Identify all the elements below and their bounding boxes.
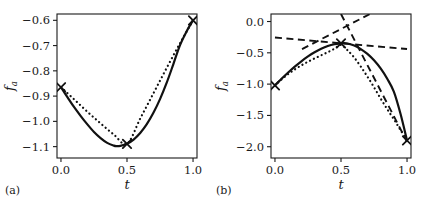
marker-sample-point	[271, 81, 279, 89]
marker-sample-point	[189, 16, 197, 24]
chart-panel-b: 0.00.51.00.0−0.5−1.0−1.5−2.0tfa(b)	[211, 0, 422, 209]
y-tick-label: −1.1	[22, 140, 50, 154]
y-tick-label: −0.6	[22, 13, 50, 27]
marker-sample-point	[57, 83, 65, 91]
x-tick-label: 1.0	[184, 163, 202, 177]
panel-label: (b)	[216, 184, 232, 197]
y-axis-title: fa	[213, 81, 230, 92]
y-tick-label: −0.5	[236, 46, 264, 60]
series-tangent-falling	[341, 14, 407, 142]
y-tick-label: −1.0	[22, 114, 50, 128]
series-true-objective	[61, 20, 193, 146]
plot-area	[271, 14, 411, 145]
svg-text:fa: fa	[213, 81, 230, 92]
y-axis-title: fa	[2, 81, 19, 92]
chart-panel-a: 0.00.51.0−0.6−0.7−0.8−0.9−1.0−1.1tfa(a)	[0, 0, 211, 209]
y-tick-label: −1.5	[236, 108, 264, 122]
axes-frame	[271, 14, 411, 158]
plot-svg: 0.00.51.00.0−0.5−1.0−1.5−2.0tfa(b)	[211, 0, 422, 209]
x-axis-title: t	[338, 177, 344, 192]
x-tick-label: 0.0	[266, 163, 284, 177]
y-tick-label: −2.0	[236, 140, 264, 154]
x-tick-label: 0.5	[118, 163, 136, 177]
x-tick-label: 0.5	[332, 163, 350, 177]
x-tick-label: 1.0	[398, 163, 416, 177]
x-tick-label: 0.0	[52, 163, 70, 177]
plot-svg: 0.00.51.0−0.6−0.7−0.8−0.9−1.0−1.1tfa(a)	[0, 0, 211, 209]
x-axis-title: t	[124, 177, 130, 192]
series-surrogate-model	[61, 20, 193, 144]
y-tick-label: −1.0	[236, 77, 264, 91]
figure-container: 0.00.51.0−0.6−0.7−0.8−0.9−1.0−1.1tfa(a) …	[0, 0, 422, 209]
y-tick-label: −0.7	[22, 39, 50, 53]
series-surrogate-model	[275, 45, 407, 140]
y-tick-label: −0.8	[22, 64, 50, 78]
y-tick-label: −0.9	[22, 89, 50, 103]
axes-frame	[57, 14, 197, 158]
plot-area	[57, 16, 197, 148]
y-tick-label: 0.0	[246, 15, 264, 29]
panel-label: (a)	[5, 184, 20, 197]
svg-text:fa: fa	[2, 81, 19, 92]
series-true-objective	[275, 43, 407, 140]
